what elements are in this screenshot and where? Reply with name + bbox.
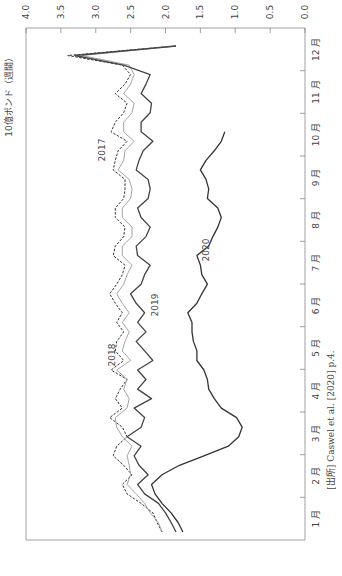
rotated-line-chart: 0.00.51.01.52.02.53.03.54.01 月2 月3 月4 月5… bbox=[0, 0, 342, 576]
month-label: 7 月 bbox=[311, 254, 321, 272]
source-note: [出所] Caswel et al. [2020] p.4. bbox=[325, 350, 336, 489]
month-label: 5 月 bbox=[311, 339, 321, 357]
month-label: 3 月 bbox=[311, 425, 321, 443]
series-line-2018 bbox=[82, 46, 176, 532]
series-label-2020: 2020 bbox=[201, 238, 211, 261]
series-line-2017 bbox=[68, 46, 176, 532]
month-label: 4 月 bbox=[311, 382, 321, 400]
series-line-2019 bbox=[75, 46, 176, 532]
month-label: 10 月 bbox=[311, 123, 321, 146]
value-tick-label: 4.0 bbox=[21, 5, 31, 20]
chart-labels: 2017201820192020[出所] Caswel et al. [2020… bbox=[97, 139, 336, 490]
series-label-2019: 2019 bbox=[150, 293, 160, 316]
month-label: 6 月 bbox=[311, 297, 321, 315]
value-tick-label: 3.5 bbox=[56, 5, 66, 19]
chart-axes: 0.00.51.01.52.02.53.03.54.01 月2 月3 月4 月5… bbox=[3, 5, 321, 540]
month-label: 9 月 bbox=[311, 169, 321, 187]
value-tick-label: 1.5 bbox=[195, 5, 205, 19]
value-tick-label: 0.0 bbox=[300, 5, 310, 20]
series-line-2020 bbox=[152, 132, 243, 532]
month-label: 1 月 bbox=[311, 510, 321, 528]
month-label: 12 月 bbox=[311, 38, 321, 61]
value-axis-title: 10億ポンド（週間） bbox=[3, 53, 14, 136]
series-label-2018: 2018 bbox=[107, 343, 117, 366]
month-label: 11 月 bbox=[311, 80, 321, 103]
value-tick-label: 3.0 bbox=[91, 5, 101, 20]
value-tick-label: 1.0 bbox=[230, 5, 240, 20]
value-tick-label: 2.5 bbox=[126, 5, 136, 19]
chart-series bbox=[68, 46, 242, 532]
month-label: 8 月 bbox=[311, 211, 321, 229]
series-label-2017: 2017 bbox=[97, 139, 107, 162]
value-tick-label: 2.0 bbox=[161, 5, 171, 20]
month-label: 2 月 bbox=[311, 467, 321, 485]
value-tick-label: 0.5 bbox=[265, 5, 275, 19]
